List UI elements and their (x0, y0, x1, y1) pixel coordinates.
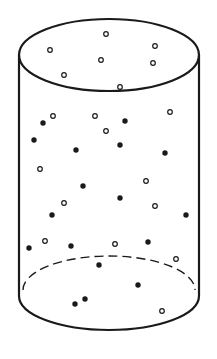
open-particle (168, 110, 173, 115)
cylinder-outline (19, 19, 199, 330)
filled-particle (73, 147, 78, 152)
filled-particle (68, 243, 73, 248)
bottom-front-arc (19, 296, 199, 330)
open-particle (153, 204, 158, 209)
top-ellipse (19, 19, 199, 91)
filled-particle (82, 296, 87, 301)
filled-particle (117, 195, 122, 200)
filled-particle (135, 282, 140, 287)
open-particle (99, 58, 104, 63)
open-particle (160, 309, 165, 314)
cylinder-diagram (0, 0, 217, 359)
open-particles (38, 32, 179, 314)
filled-particle (72, 301, 77, 306)
filled-particle (122, 118, 127, 123)
open-particle (144, 179, 149, 184)
open-particle (113, 242, 118, 247)
open-particle (62, 201, 67, 206)
open-particle (104, 129, 109, 134)
open-particle (93, 114, 98, 119)
bottom-back-arc-dashed (23, 256, 195, 290)
filled-particle (117, 142, 122, 147)
open-particle (153, 44, 158, 49)
filled-particle (162, 150, 167, 155)
filled-particle (26, 245, 31, 250)
open-particle (51, 114, 56, 119)
filled-particle (80, 183, 85, 188)
filled-particle (31, 137, 36, 142)
open-particle (43, 239, 48, 244)
open-particle (48, 48, 53, 53)
open-particle (174, 257, 179, 262)
open-particle (118, 85, 123, 90)
open-particle (151, 61, 156, 66)
filled-particles (26, 118, 188, 306)
filled-particle (145, 239, 150, 244)
open-particle (38, 167, 43, 172)
filled-particle (96, 262, 101, 267)
open-particle (104, 32, 109, 37)
filled-particle (40, 120, 45, 125)
filled-particle (183, 212, 188, 217)
filled-particle (49, 212, 54, 217)
open-particle (62, 73, 67, 78)
cylinder-figure (0, 0, 217, 359)
